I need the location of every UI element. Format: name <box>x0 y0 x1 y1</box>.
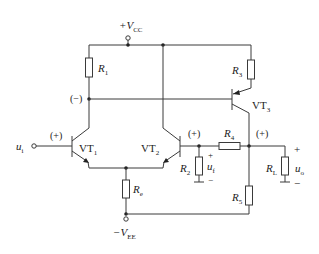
svg-text:−: − <box>208 175 213 185</box>
svg-text:+: + <box>294 143 300 155</box>
svg-text:ui: ui <box>16 140 24 155</box>
output-voltage: + uo − <box>294 143 305 189</box>
svg-text:R4: R4 <box>223 127 235 142</box>
polarity-output-node: (+) <box>256 128 268 140</box>
svg-text:VT3: VT3 <box>252 99 271 114</box>
vee-label: −VEE <box>113 226 136 241</box>
resistor-r4: R4 <box>219 127 285 150</box>
resistor-rl: RL <box>265 146 290 182</box>
transistor-vt1: VT1 <box>72 128 98 168</box>
transistor-vt2: VT2 <box>141 128 180 168</box>
svg-text:R3: R3 <box>231 64 243 79</box>
svg-text:RL: RL <box>265 162 277 177</box>
svg-text:+: + <box>208 150 213 160</box>
svg-text:R5: R5 <box>231 191 243 206</box>
vcc-label: +VCC <box>119 19 143 34</box>
polarity-vt1-base: (+) <box>50 130 62 142</box>
svg-text:R1: R1 <box>97 62 109 77</box>
resistor-r2: R2 <box>179 146 204 182</box>
svg-text:Re: Re <box>132 183 143 198</box>
svg-text:VT1: VT1 <box>79 142 98 157</box>
resistor-r5: R5 <box>231 146 253 214</box>
svg-text:uf: uf <box>207 160 216 175</box>
svg-text:uo: uo <box>295 162 305 177</box>
polarity-vt2-base: (+) <box>188 128 200 140</box>
svg-text:VT2: VT2 <box>141 142 160 157</box>
vcc-supply: +VCC <box>119 19 143 45</box>
resistor-re: Re <box>123 168 143 214</box>
feedback-voltage: + uf − <box>207 150 216 185</box>
svg-text:R2: R2 <box>179 162 191 177</box>
resistor-r3: R3 <box>231 45 255 88</box>
circuit-diagram: +VCC R1 (−) VT1 ui (+) VT2 <box>0 0 319 254</box>
vee-terminal <box>124 217 128 221</box>
polarity-vt1-collector: (−) <box>70 93 82 105</box>
svg-text:−: − <box>294 177 300 189</box>
vcc-terminal <box>126 36 130 40</box>
input-terminal: ui (+) <box>16 130 72 155</box>
resistor-r1: R1 <box>86 45 109 99</box>
